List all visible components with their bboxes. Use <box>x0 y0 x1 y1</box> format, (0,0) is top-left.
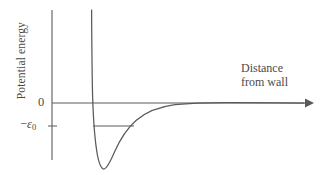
y-axis-label: Potential energy <box>15 13 28 109</box>
potential-energy-diagram: Potential energy Distancefrom wall 0 −ε0 <box>0 0 322 175</box>
epsilon-subscript: 0 <box>32 122 36 132</box>
y-tick-label-epsilon-zero: −ε0 <box>20 117 36 133</box>
minus-sign: − <box>20 117 27 131</box>
x-axis-arrowhead <box>305 99 314 108</box>
x-axis-label-line2: from wall <box>241 76 288 90</box>
y-tick-label-zero: 0 <box>38 95 44 109</box>
x-axis-label: Distancefrom wall <box>241 62 288 90</box>
x-axis-label-line1: Distance <box>241 61 283 75</box>
